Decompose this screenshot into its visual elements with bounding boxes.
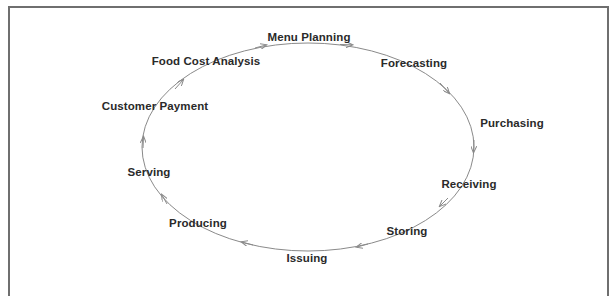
step-producing: Producing xyxy=(169,217,227,229)
step-forecasting: Forecasting xyxy=(381,57,447,69)
step-customer-payment: Customer Payment xyxy=(102,100,208,112)
step-issuing: Issuing xyxy=(287,252,328,264)
step-storing: Storing xyxy=(387,225,428,237)
step-menu-planning: Menu Planning xyxy=(267,31,350,43)
step-purchasing: Purchasing xyxy=(480,117,544,129)
step-serving: Serving xyxy=(128,166,171,178)
step-receiving: Receiving xyxy=(441,178,496,190)
step-food-cost-analysis: Food Cost Analysis xyxy=(152,55,261,67)
